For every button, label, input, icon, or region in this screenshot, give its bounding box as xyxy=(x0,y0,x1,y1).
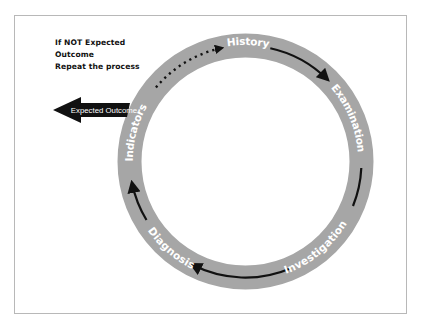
cycle-diagram: History Examination Investigation Diagno… xyxy=(0,0,426,331)
expected-outcome-arrow: Expected Outcome xyxy=(53,97,137,123)
expected-outcome-label: Expected Outcome xyxy=(71,106,137,115)
